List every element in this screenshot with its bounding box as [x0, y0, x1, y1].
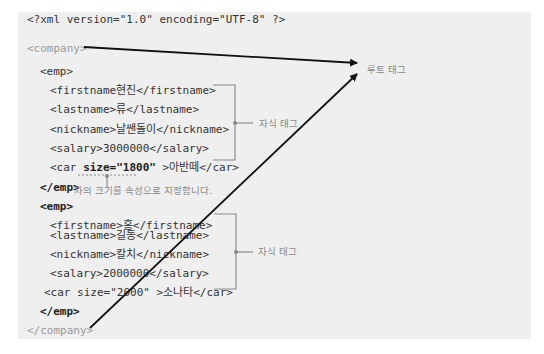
arrow-company-open [84, 47, 357, 63]
diagram-overlay [0, 0, 544, 354]
arrow-company-close [90, 74, 357, 328]
attribute-pointer [78, 174, 137, 188]
bracket-children-1 [213, 85, 253, 160]
bracket-children-2 [214, 214, 253, 289]
